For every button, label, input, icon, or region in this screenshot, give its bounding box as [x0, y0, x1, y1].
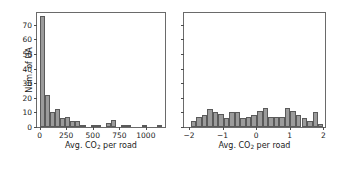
x-tick-mark: [93, 127, 94, 130]
y-tick-mark: [34, 54, 37, 55]
x-tick-label: 250: [59, 131, 73, 140]
right-x-axis-label: Avg. CO2 per road: [219, 141, 291, 150]
left-y-axis-label: Num. of UA: [25, 47, 34, 93]
y-tick-mark: [181, 25, 184, 26]
right-xlabel-pre: Avg. CO: [219, 141, 251, 150]
histogram-bar: [80, 125, 85, 127]
x-tick-label: 500: [86, 131, 100, 140]
x-tick-mark: [223, 127, 224, 130]
y-tick-mark: [181, 39, 184, 40]
y-tick-label: 20: [22, 93, 32, 102]
x-tick-mark: [323, 127, 324, 130]
x-tick-mark: [119, 127, 120, 130]
y-tick-mark: [181, 83, 184, 84]
left-x-axis-label: Avg. CO2 per road: [65, 141, 137, 150]
x-tick-mark: [189, 127, 190, 130]
x-tick-label: −2: [184, 131, 195, 140]
y-tick-mark: [34, 127, 37, 128]
x-tick-label: 0: [37, 131, 42, 140]
histogram-bar: [96, 125, 101, 127]
y-tick-label: 70: [22, 20, 32, 29]
x-tick-label: 2: [321, 131, 326, 140]
histogram-bar: [126, 125, 131, 127]
x-tick-mark: [256, 127, 257, 130]
left-xlabel-pre: Avg. CO: [65, 141, 97, 150]
figure-canvas: 02505007501000 010203040506070 Avg. CO2 …: [0, 0, 341, 172]
y-tick-mark: [181, 112, 184, 113]
x-tick-label: −1: [217, 131, 228, 140]
y-tick-mark: [181, 127, 184, 128]
x-tick-mark: [146, 127, 147, 130]
right-histogram-bars: [184, 13, 325, 127]
y-tick-mark: [34, 39, 37, 40]
y-tick-mark: [34, 112, 37, 113]
left-histogram-axes: 02505007501000 010203040506070 Avg. CO2 …: [36, 12, 166, 128]
x-tick-label: 1000: [136, 131, 155, 140]
right-xlabel-post: per road: [254, 141, 290, 150]
y-tick-mark: [34, 98, 37, 99]
y-tick-mark: [34, 83, 37, 84]
x-tick-mark: [290, 127, 291, 130]
y-tick-mark: [181, 98, 184, 99]
left-xlabel-post: per road: [101, 141, 137, 150]
x-tick-mark: [66, 127, 67, 130]
y-tick-label: 0: [27, 123, 32, 132]
x-tick-label: 750: [112, 131, 126, 140]
y-tick-label: 60: [22, 35, 32, 44]
histogram-bar: [157, 125, 162, 127]
x-tick-mark: [40, 127, 41, 130]
y-tick-mark: [181, 69, 184, 70]
x-tick-label: 1: [287, 131, 292, 140]
y-tick-mark: [34, 25, 37, 26]
histogram-bar: [111, 120, 116, 127]
y-tick-mark: [181, 54, 184, 55]
y-tick-mark: [34, 69, 37, 70]
x-tick-label: 0: [254, 131, 259, 140]
left-histogram-bars: [37, 13, 165, 127]
y-tick-label: 10: [22, 108, 32, 117]
right-histogram-axes: −2−1012 Avg. CO2 per road: [183, 12, 326, 128]
